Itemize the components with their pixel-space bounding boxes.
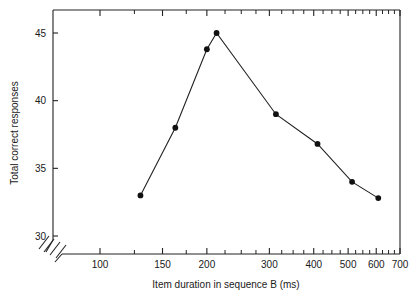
y-tick-label: 45 — [35, 28, 47, 39]
x-tick-label: 150 — [154, 259, 171, 270]
x-axis-title: Item duration in sequence B (ms) — [152, 279, 299, 290]
line-chart: 30354045 100150200300400500600700 Item d… — [0, 0, 420, 299]
x-tick-label: 400 — [305, 259, 322, 270]
data-point — [172, 125, 178, 131]
x-tick-label: 500 — [340, 259, 357, 270]
x-tick-label: 200 — [199, 259, 216, 270]
x-tick-label: 700 — [392, 259, 409, 270]
y-axis-title: Total correct responses — [9, 81, 20, 184]
y-tick-label: 35 — [35, 163, 47, 174]
data-point — [349, 179, 355, 185]
data-point — [138, 193, 144, 199]
x-tick-label: 300 — [261, 259, 278, 270]
y-tick-label: 30 — [35, 231, 47, 242]
data-point — [204, 46, 210, 52]
y-tick-label: 40 — [35, 95, 47, 106]
x-tick-label: 100 — [92, 259, 109, 270]
data-point — [214, 30, 220, 36]
chart-figure: 30354045 100150200300400500600700 Item d… — [0, 0, 420, 299]
data-point — [375, 195, 381, 201]
data-point — [273, 111, 279, 117]
x-tick-label: 600 — [368, 259, 385, 270]
data-point — [315, 141, 321, 147]
